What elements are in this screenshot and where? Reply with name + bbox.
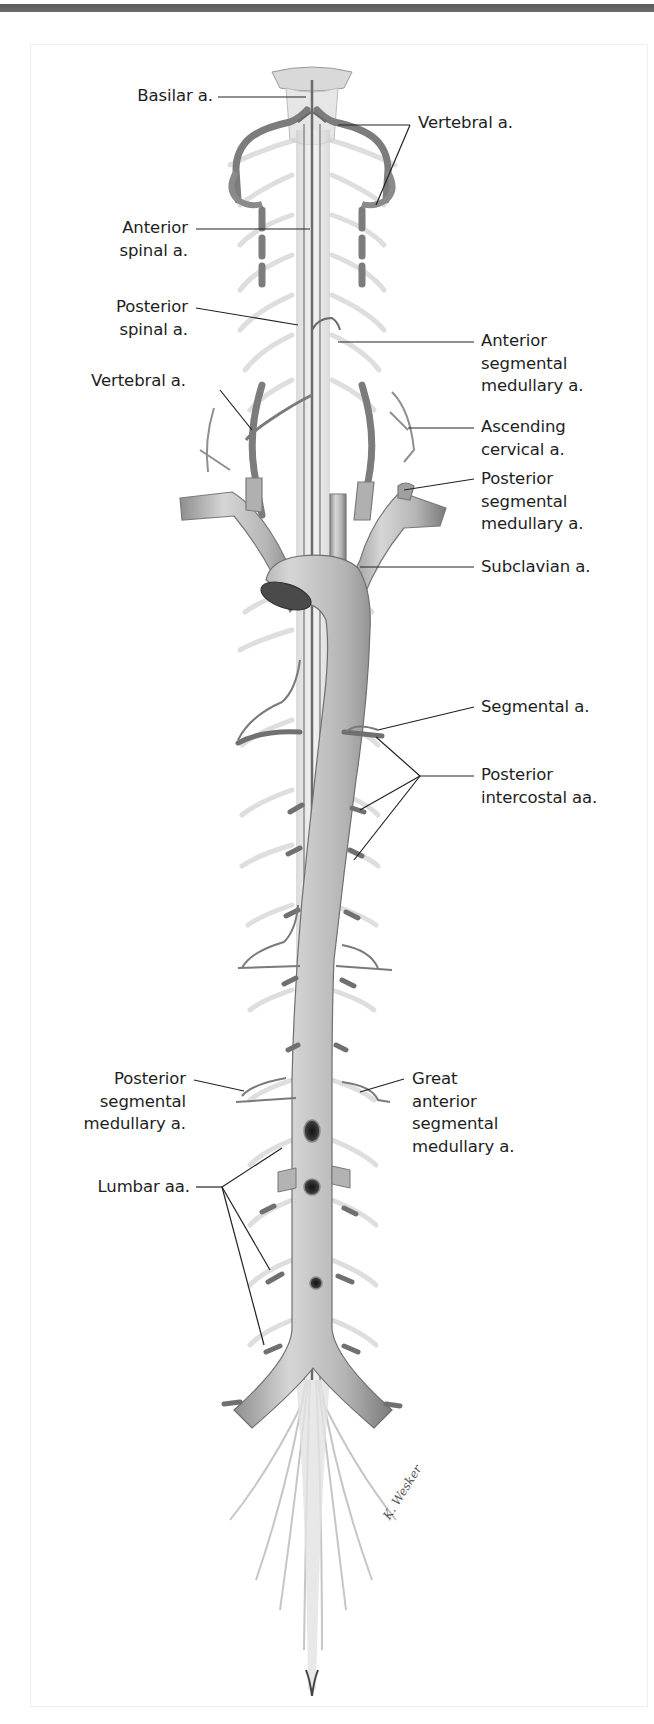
label-vertebral-artery-left: Vertebral a. [91, 370, 186, 393]
label-basilar-artery: Basilar a. [137, 85, 213, 108]
spinal-artery-illustration [0, 0, 654, 1724]
label-posterior-segmental-medullary-artery-top: Posterior segmental medullary a. [481, 468, 583, 536]
label-anterior-spinal-artery: Anterior spinal a. [119, 217, 188, 262]
label-vertebral-artery-top: Vertebral a. [418, 112, 513, 135]
label-posterior-intercostal-arteries: Posterior intercostal aa. [481, 764, 597, 809]
label-anterior-segmental-medullary-artery: Anterior segmental medullary a. [481, 330, 583, 398]
label-subclavian-artery: Subclavian a. [481, 556, 590, 579]
label-great-anterior-segmental-medullary-artery: Great anterior segmental medullary a. [412, 1068, 514, 1158]
label-lumbar-arteries: Lumbar aa. [97, 1176, 190, 1199]
label-ascending-cervical-artery: Ascending cervical a. [481, 416, 566, 461]
label-segmental-artery: Segmental a. [481, 696, 589, 719]
label-posterior-segmental-medullary-artery-bottom: Posterior segmental medullary a. [84, 1068, 186, 1136]
label-posterior-spinal-artery: Posterior spinal a. [116, 296, 188, 341]
